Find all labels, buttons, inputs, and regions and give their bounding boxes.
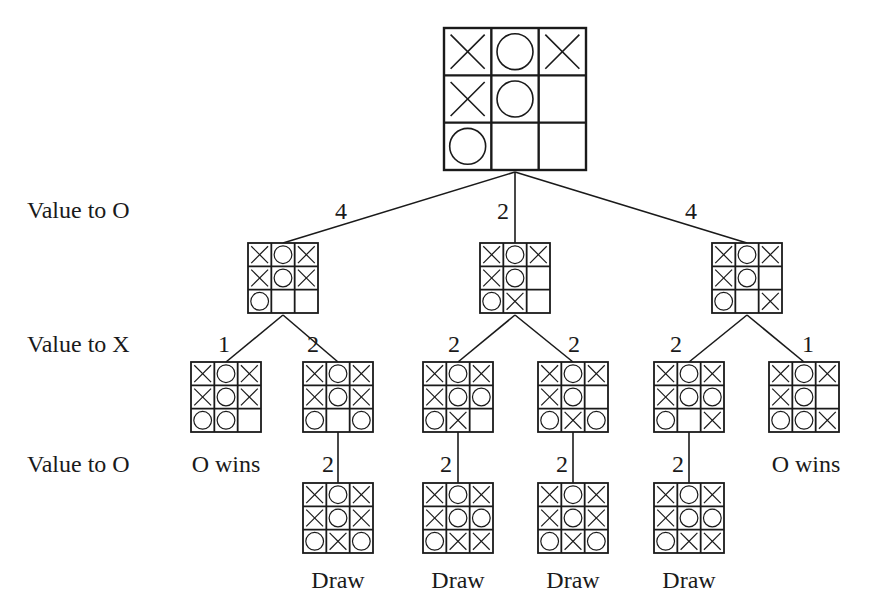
- tic-tac-toe-board: [246, 241, 320, 315]
- edge-value-label: 2: [672, 452, 684, 476]
- tic-tac-toe-board: [710, 241, 784, 315]
- tree-edge: [458, 315, 515, 362]
- tic-tac-toe-board: [536, 481, 610, 555]
- tic-tac-toe-board: [536, 360, 610, 434]
- edge-value-label: 2: [670, 332, 682, 356]
- edge-value-label: 4: [685, 199, 697, 223]
- edge-value-label: 2: [322, 452, 334, 476]
- row-label: Value to O: [27, 198, 130, 222]
- tic-tac-toe-board: [442, 26, 588, 172]
- tic-tac-toe-board: [301, 481, 375, 555]
- edge-value-label: 2: [497, 199, 509, 223]
- tic-tac-toe-board: [421, 360, 495, 434]
- row-label: Value to X: [27, 332, 130, 356]
- edge-value-label: 2: [568, 332, 580, 356]
- outcome-label: O wins: [772, 452, 841, 476]
- tree-edge: [515, 315, 573, 362]
- game-tree-diagram: Value to OValue to XValue to O4241222212…: [0, 0, 875, 613]
- outcome-label: O wins: [192, 452, 261, 476]
- edge-value-label: 2: [307, 332, 319, 356]
- tic-tac-toe-board: [301, 360, 375, 434]
- tree-edge: [283, 172, 515, 243]
- outcome-label: Draw: [662, 568, 715, 592]
- row-label: Value to O: [27, 452, 130, 476]
- tree-edge: [689, 315, 747, 362]
- outcome-label: Draw: [546, 568, 599, 592]
- tic-tac-toe-board: [652, 481, 726, 555]
- tree-edge: [515, 172, 747, 243]
- outcome-label: Draw: [431, 568, 484, 592]
- tree-edge: [747, 315, 804, 362]
- edge-value-label: 2: [448, 332, 460, 356]
- tree-edge: [226, 315, 283, 362]
- tic-tac-toe-board: [767, 360, 841, 434]
- tic-tac-toe-board: [189, 360, 263, 434]
- edge-value-label: 1: [802, 332, 814, 356]
- edge-value-label: 4: [335, 199, 347, 223]
- outcome-label: Draw: [311, 568, 364, 592]
- tic-tac-toe-board: [421, 481, 495, 555]
- tic-tac-toe-board: [652, 360, 726, 434]
- edge-value-label: 2: [556, 452, 568, 476]
- tic-tac-toe-board: [478, 241, 552, 315]
- edge-value-label: 2: [440, 452, 452, 476]
- edge-value-label: 1: [218, 332, 230, 356]
